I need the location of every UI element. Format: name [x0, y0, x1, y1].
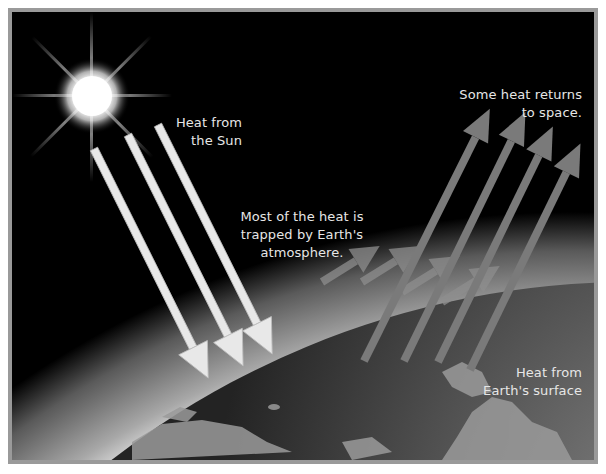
label-trapped: Most of the heat is trapped by Earth's a…: [227, 208, 377, 262]
label-returns: Some heat returns to space.: [452, 86, 582, 122]
diagram-panel: Heat from the Sun Most of the heat is tr…: [8, 8, 598, 464]
label-sun-heat: Heat from the Sun: [162, 114, 242, 150]
greenhouse-diagram: Heat from the Sun Most of the heat is tr…: [0, 0, 606, 474]
sun-icon: [12, 12, 172, 182]
label-surface-heat: Heat from Earth's surface: [462, 364, 582, 400]
